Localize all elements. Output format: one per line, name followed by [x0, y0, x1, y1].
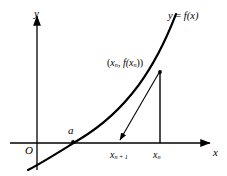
- tick-label-xn-plus-1: xn + 1: [110, 150, 128, 161]
- curve-label-fx: f(x): [184, 10, 199, 21]
- newton-method-figure: y x O a y = f(x) (xn, f(xn)) xn + 1 xn: [0, 0, 227, 176]
- function-curve: [28, 14, 176, 170]
- tangent-line: [120, 71, 160, 140]
- curve-label-equals: =: [173, 10, 184, 21]
- x-axis-label: x: [213, 147, 218, 158]
- y-axis-label: y: [34, 8, 39, 19]
- origin-label: O: [25, 145, 33, 156]
- root-label: a: [68, 125, 74, 136]
- xn1-subscript: n + 1: [114, 153, 127, 160]
- tangency-point-label: (xn, f(xn)): [107, 58, 143, 69]
- tick-label-xn: xn: [153, 150, 161, 161]
- point-f: f(x: [123, 57, 134, 68]
- tangency-point-marker: [158, 70, 162, 74]
- point-close-paren: )): [137, 57, 144, 68]
- root-point-marker: [71, 140, 75, 144]
- xn-subscript: n: [157, 153, 160, 160]
- curve-equation-label: y = f(x): [168, 11, 198, 22]
